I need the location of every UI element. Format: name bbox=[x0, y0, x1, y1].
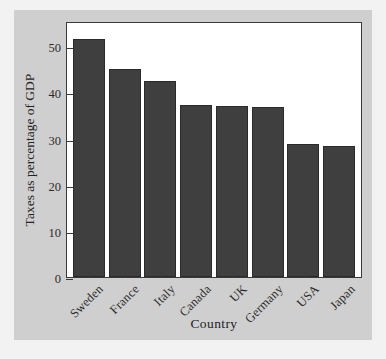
bar-series bbox=[67, 23, 361, 277]
x-tick-label-canada: Canada bbox=[177, 282, 215, 320]
x-tick-label-uk: UK bbox=[227, 282, 251, 306]
bar-uk[interactable] bbox=[216, 106, 248, 277]
x-tick-mark bbox=[197, 271, 198, 277]
bar-japan[interactable] bbox=[323, 146, 355, 277]
bar-slot bbox=[143, 23, 179, 277]
y-tick-mark bbox=[66, 279, 73, 280]
x-tick-mark bbox=[341, 271, 342, 277]
bar-slot bbox=[71, 23, 107, 277]
figure-background: Taxes as percentage of GDP 01020304050 S… bbox=[14, 10, 372, 340]
bar-slot bbox=[214, 23, 250, 277]
y-tick-label: 0 bbox=[55, 272, 61, 287]
x-tick-label-usa: USA bbox=[294, 282, 323, 311]
x-tick-mark bbox=[161, 271, 162, 277]
x-tick-label-italy: Italy bbox=[151, 282, 179, 310]
y-tick-mark bbox=[66, 141, 73, 142]
x-tick-mark bbox=[125, 271, 126, 277]
bar-france[interactable] bbox=[109, 69, 141, 277]
bar-germany[interactable] bbox=[252, 107, 284, 277]
y-tick-label: 10 bbox=[49, 225, 62, 240]
bar-italy[interactable] bbox=[144, 81, 176, 277]
bar-usa[interactable] bbox=[287, 144, 319, 277]
y-tick-label: 50 bbox=[49, 41, 62, 56]
y-tick-mark bbox=[66, 94, 73, 95]
x-axis-title: Country bbox=[66, 316, 362, 332]
y-tick-mark bbox=[66, 233, 73, 234]
y-axis-title: Taxes as percentage of GDP bbox=[20, 22, 40, 278]
bar-slot bbox=[107, 23, 143, 277]
bar-sweden[interactable] bbox=[73, 39, 105, 277]
x-tick-label-japan: Japan bbox=[327, 282, 358, 313]
plot-area: 01020304050 bbox=[66, 22, 362, 278]
bar-slot bbox=[178, 23, 214, 277]
y-tick-label: 30 bbox=[49, 133, 62, 148]
bar-slot bbox=[321, 23, 357, 277]
x-tick-mark bbox=[233, 271, 234, 277]
bar-slot bbox=[250, 23, 286, 277]
x-tick-label-france: France bbox=[107, 282, 143, 318]
x-tick-mark bbox=[89, 271, 90, 277]
bar-slot bbox=[286, 23, 322, 277]
y-tick-label: 20 bbox=[49, 179, 62, 194]
y-tick-mark bbox=[66, 187, 73, 188]
x-tick-mark bbox=[305, 271, 306, 277]
bar-canada[interactable] bbox=[180, 105, 212, 277]
y-tick-mark bbox=[66, 48, 73, 49]
x-tick-mark bbox=[269, 271, 270, 277]
y-tick-label: 40 bbox=[49, 87, 62, 102]
